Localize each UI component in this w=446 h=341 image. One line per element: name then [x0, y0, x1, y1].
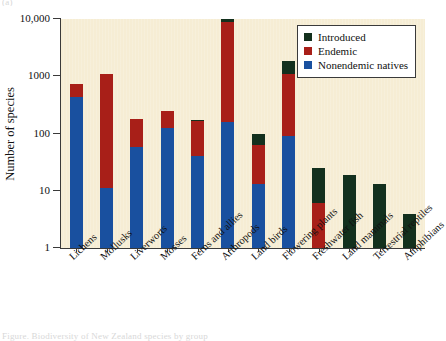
- y-tick-label: 1000: [28, 69, 50, 81]
- figure-label-fragment: (a): [2, 0, 13, 6]
- legend-swatch-endemic: [304, 47, 312, 55]
- y-tick-label: 100: [34, 127, 51, 139]
- bar-segment-endemic: [130, 119, 143, 148]
- legend-item-endemic[interactable]: Endemic: [304, 44, 408, 58]
- bar-segment-introduced: [312, 168, 325, 203]
- legend-label: Introduced: [318, 32, 366, 43]
- bar-segment-nonendemic-natives: [191, 156, 204, 248]
- y-tick-label: 10: [39, 184, 50, 196]
- bar-segment-nonendemic-natives: [252, 184, 265, 248]
- y-tick-label: 10,000: [20, 12, 50, 24]
- bar-segment-endemic: [221, 22, 234, 122]
- bar-segment-endemic: [252, 145, 265, 184]
- bar-segment-endemic: [100, 74, 113, 189]
- y-axis-label: Number of species: [3, 87, 18, 181]
- legend-item-introduced[interactable]: Introduced: [304, 30, 408, 44]
- bar-segment-introduced: [252, 134, 265, 145]
- y-tick-1000: 1000: [53, 75, 61, 76]
- y-tick-label: 1: [45, 241, 51, 253]
- legend: IntroducedEndemicNonendemic natives: [297, 25, 416, 78]
- legend-swatch-nonendemic: [304, 61, 312, 69]
- bar-segment-nonendemic-natives: [70, 97, 83, 248]
- bar-segment-endemic: [70, 84, 83, 97]
- y-tick-10: 10: [53, 190, 61, 191]
- legend-swatch-introduced: [304, 33, 312, 41]
- bar-segment-introduced: [282, 61, 295, 74]
- bar-segment-introduced: [221, 19, 234, 22]
- legend-item-nonendemic-natives[interactable]: Nonendemic natives: [304, 58, 408, 72]
- legend-label: Endemic: [318, 46, 357, 57]
- y-tick-1: 1: [53, 247, 61, 248]
- bar-segment-endemic: [282, 74, 295, 136]
- bar-segment-introduced: [191, 120, 204, 121]
- legend-label: Nonendemic natives: [318, 60, 408, 71]
- bar-segment-endemic: [161, 111, 174, 128]
- y-tick-100: 100: [53, 133, 61, 134]
- bar-segment-nonendemic-natives: [100, 188, 113, 248]
- bar-segment-endemic: [191, 121, 204, 156]
- y-tick-10000: 10,000: [53, 18, 61, 19]
- figure-caption-fragment: Figure. Biodiversity of New Zealand spec…: [2, 331, 208, 341]
